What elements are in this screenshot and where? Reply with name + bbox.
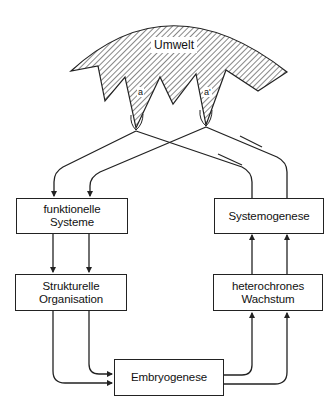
node-label-line2: Systeme [50, 216, 94, 229]
edge-systemogenese-to-aprime [206, 127, 287, 198]
environment-label: Umwelt [151, 37, 197, 53]
node-heterochrones-wachstum: heterochrones Wachstum [213, 274, 323, 311]
node-embryogenese: Embryogenese [114, 359, 224, 396]
node-label-line2: Wachstum [241, 293, 294, 306]
node-label-line2: Organisation [39, 293, 103, 306]
node-funktionelle-systeme: funktionelle Systeme [16, 198, 128, 234]
node-label-line1: Strukturelle [43, 280, 100, 293]
edge-strukturelle-to-embryogenese-2 [89, 311, 112, 374]
node-strukturelle-organisation: Strukturelle Organisation [15, 274, 127, 311]
node-label-line1: funktionelle [44, 203, 101, 216]
node-label-line1: Systemogenese [228, 210, 309, 223]
node-label-line1: Embryogenese [131, 371, 207, 384]
interface-label-a: a [137, 87, 144, 97]
node-label-line1: heterochrones [232, 280, 304, 293]
node-systemogenese: Systemogenese [214, 198, 324, 234]
edge-a-to-funktionelle [54, 131, 136, 196]
edge-strukturelle-to-embryogenese-1 [53, 311, 112, 383]
edge-embryogenese-to-heterochrones-1 [224, 313, 252, 375]
edge-systemogenese-to-a [136, 131, 252, 198]
interface-label-a-prime: a' [203, 87, 212, 97]
edge-aprime-to-funktionelle [90, 127, 206, 196]
edge-embryogenese-to-heterochrones-2 [224, 313, 287, 384]
